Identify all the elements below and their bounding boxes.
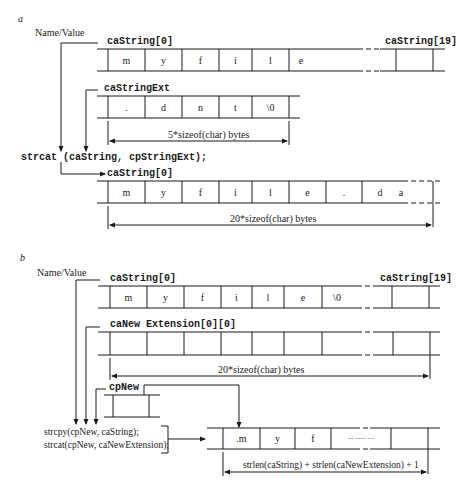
b-cell: m: [110, 293, 147, 303]
a-ext-cell: \0: [252, 103, 289, 113]
a-ext-cell: n: [182, 103, 219, 113]
b-new-cell: y: [260, 434, 295, 444]
b-new-cell: f: [295, 434, 331, 444]
b-new-size-label: strlen(caString) + strlen(caNewExtension…: [243, 461, 419, 471]
b-name-value-header: Name/Value: [37, 268, 86, 278]
b-ext-size-label: 20*sizeof(char) bytes: [218, 365, 304, 375]
b-caString-last-label: caString[19]: [380, 274, 452, 284]
a-cell: l: [252, 56, 289, 66]
a-result-size-label: 20*sizeof(char) bytes: [230, 214, 316, 224]
a-result-cell: i: [219, 188, 252, 198]
a-caString-last-label: caString[19]: [385, 37, 457, 47]
b-cell: f: [184, 293, 221, 303]
a-cell: y: [145, 56, 182, 66]
diagram-canvas: [0, 0, 465, 482]
a-ext-cell: t: [219, 103, 252, 113]
a-result-cell: .: [326, 188, 362, 198]
a-name-value-header: Name/Value: [35, 28, 84, 38]
a-result-cell: a: [393, 188, 409, 198]
b-strcat-statement: strcat(cpNew, caNewExtension);: [44, 441, 169, 451]
a-strcat-statement: strcat (caString, cpStringExt);: [21, 153, 207, 163]
b-new-cell: .m: [223, 434, 260, 444]
a-cell: e: [289, 56, 313, 66]
a-caString-first-label: caString[0]: [107, 37, 173, 47]
a-ext-cell: .: [108, 103, 145, 113]
a-result-cell: y: [145, 188, 182, 198]
a-result-cell: m: [108, 188, 145, 198]
b-cpNew-label: cpNew: [109, 383, 139, 393]
a-caStringExt-label: caStringExt: [104, 84, 170, 94]
b-cell: l: [252, 293, 284, 303]
b-cell: y: [147, 293, 184, 303]
a-cell: f: [182, 56, 219, 66]
a-result-cell: l: [252, 188, 289, 198]
b-cell: i: [221, 293, 252, 303]
b-caString-first-label: caString[0]: [110, 274, 176, 284]
b-cell: \0: [322, 293, 352, 303]
b-new-cell: ... ...... ....: [331, 434, 391, 441]
b-caNewExt-label: caNew Extension[0][0]: [110, 320, 236, 330]
b-cell: e: [284, 293, 322, 303]
a-cell: m: [108, 56, 145, 66]
a-result-label: caString[0]: [107, 169, 173, 179]
a-result-cell: e: [289, 188, 326, 198]
b-strcpy-statement: strcpy(cpNew, caString);: [44, 428, 139, 438]
a-result-cell: f: [182, 188, 219, 198]
panel-a-label: a: [18, 14, 23, 24]
a-cell: i: [219, 56, 252, 66]
a-ext-cell: d: [145, 103, 182, 113]
panel-b-label: b: [20, 253, 25, 263]
a-ext-size-label: 5*sizeof(char) bytes: [168, 130, 249, 140]
